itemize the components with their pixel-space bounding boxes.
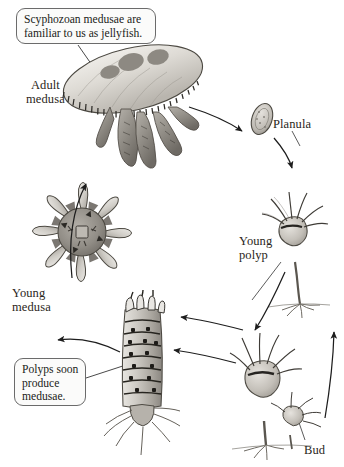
arrow-strobila-to-ephyra: [58, 339, 120, 352]
arrow-bud-to-strobila: [174, 350, 236, 363]
label-planula: Planula: [273, 117, 311, 131]
callout-polyps: Polyps soon produce medusae.: [14, 358, 86, 406]
label-bud: Bud: [304, 443, 325, 457]
cycle-arrows: [58, 107, 334, 418]
life-cycle-figure: Scyphozoan medusae are familiar to us as…: [0, 0, 344, 467]
callout-jellyfish: Scyphozoan medusae are familiar to us as…: [16, 8, 156, 44]
label-adult-medusa: Adult medusa: [26, 78, 65, 106]
arrow-polyp-to-ephyra-upper: [181, 317, 243, 330]
strobila-illustration: [104, 290, 180, 455]
adult-medusa-illustration: [57, 33, 209, 168]
label-young-polyp: Young polyp: [239, 234, 272, 262]
oral-arms: [96, 107, 199, 168]
ephyra-illustration: [33, 183, 132, 282]
budding-polyp-illustration: [230, 333, 321, 460]
arrow-planula-to-polyp: [274, 138, 292, 168]
polyp-bud: [271, 392, 321, 449]
arrow-bud-to-polyp: [325, 332, 334, 418]
label-young-medusa: Young medusa: [12, 286, 51, 314]
arrow-polyp-to-strobila: [255, 272, 285, 330]
